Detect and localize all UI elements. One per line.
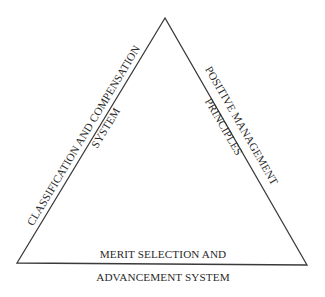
triangle-diagram: CLASSIFICATION AND COMPENSATION SYSTEM P… <box>0 0 325 297</box>
triangle-outline <box>17 18 307 265</box>
bottom-side-label-line1: MERIT SELECTION AND <box>100 248 227 260</box>
left-side-label-line1: CLASSIFICATION AND COMPENSATION <box>24 43 142 228</box>
right-side-label-line1: POSITIVE MANAGEMENT <box>203 64 281 187</box>
bottom-side-label-line2: ADVANCEMENT SYSTEM <box>96 271 229 283</box>
